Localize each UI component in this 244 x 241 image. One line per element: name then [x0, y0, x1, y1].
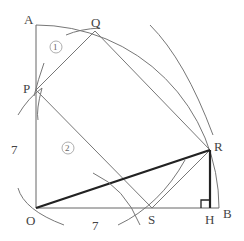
label-O: O	[26, 213, 35, 228]
label-S: S	[148, 212, 155, 227]
length-label-OS: 7	[92, 218, 99, 233]
construction-arc-R	[150, 25, 213, 135]
length-label-OP: 7	[11, 142, 18, 157]
region-label-1: 1	[53, 42, 58, 52]
right-angle-mark	[201, 200, 210, 208]
segment-QR	[95, 31, 210, 150]
segment-PS	[36, 90, 152, 208]
label-P: P	[23, 81, 30, 96]
label-A: A	[24, 12, 34, 27]
label-Q: Q	[91, 15, 101, 30]
label-R: R	[214, 139, 223, 154]
quarter-arc-AB	[36, 25, 219, 208]
geometry-figure: A Q P R O S H B 7 7 1 2	[0, 0, 244, 241]
label-H: H	[205, 212, 214, 227]
label-B: B	[223, 206, 232, 221]
segment-OR	[36, 150, 210, 208]
region-label-2: 2	[65, 143, 70, 153]
segment-PQ	[36, 31, 95, 90]
